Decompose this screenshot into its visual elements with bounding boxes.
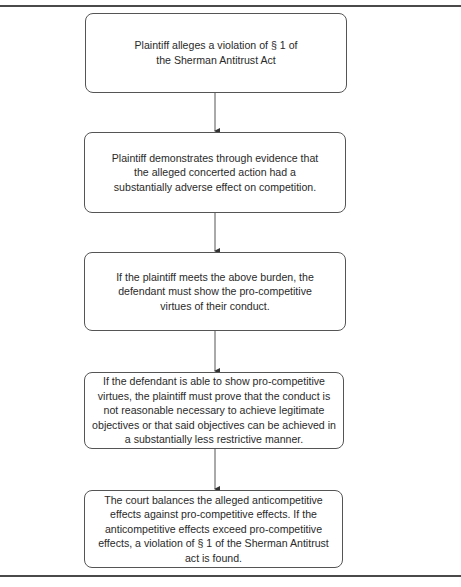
flow-step-5: The court balances the alleged anticompe… (84, 490, 343, 568)
flow-step-3-text: If the plaintiff meets the above burden,… (107, 270, 323, 314)
flow-step-4-text: If the defendant is able to show pro-com… (91, 374, 337, 447)
flow-step-2-text: Plaintiff demonstrates through evidence … (107, 151, 323, 195)
flow-step-1: Plaintiff alleges a violation of § 1 of … (85, 13, 347, 93)
flow-step-5-text: The court balances the alleged anticompe… (93, 493, 334, 566)
flow-step-4: If the defendant is able to show pro-com… (84, 372, 344, 449)
flow-step-2: Plaintiff demonstrates through evidence … (84, 132, 346, 213)
flow-step-1-text: Plaintiff alleges a violation of § 1 of … (126, 38, 306, 67)
flow-step-3: If the plaintiff meets the above burden,… (84, 252, 346, 331)
bottom-rule (0, 575, 461, 577)
